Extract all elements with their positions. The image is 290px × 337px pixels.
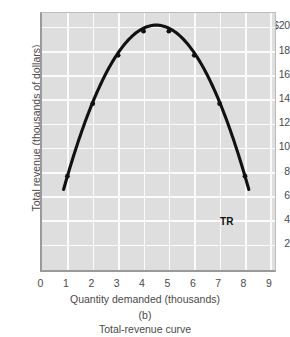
x-tick-label-2: 2	[81, 278, 101, 289]
x-tick-label-9: 9	[259, 278, 279, 289]
data-point-8	[243, 174, 248, 179]
data-point-6	[192, 53, 197, 58]
x-axis-title: Quantity demanded (thousands)	[0, 293, 290, 305]
x-tick-label-8: 8	[234, 278, 254, 289]
tr-curve-path	[64, 25, 249, 189]
x-tick-label-3: 3	[107, 278, 127, 289]
data-point-3	[116, 53, 121, 58]
figure-total-revenue-curve: Total revenue (thousands of dollars) $20…	[0, 0, 290, 337]
plot-area: TR	[40, 12, 276, 272]
figure-caption: Total-revenue curve	[0, 323, 290, 335]
x-tick-label-4: 4	[132, 278, 152, 289]
data-point-1	[65, 174, 70, 179]
x-tick-label-1: 1	[56, 278, 76, 289]
x-tick-label-5: 5	[157, 278, 177, 289]
data-point-2	[90, 101, 95, 106]
x-tick-label-6: 6	[183, 278, 203, 289]
data-point-4	[141, 29, 146, 34]
tr-curve-label: TR	[220, 216, 234, 227]
data-point-5	[166, 29, 171, 34]
x-tick-label-0: 0	[31, 278, 51, 289]
data-point-markers	[65, 29, 247, 179]
total-revenue-curve-plot	[42, 13, 276, 272]
data-point-7	[217, 101, 222, 106]
panel-letter: (b)	[0, 309, 290, 321]
x-tick-label-7: 7	[208, 278, 228, 289]
